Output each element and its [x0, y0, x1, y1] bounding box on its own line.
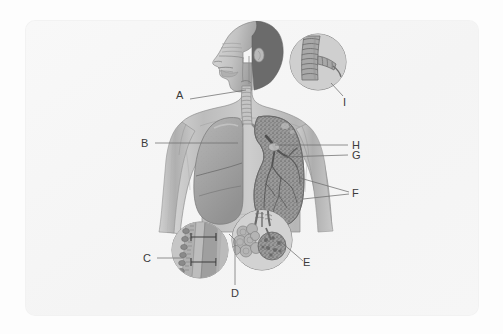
label-E: E — [303, 257, 311, 268]
leader-I — [331, 83, 343, 96]
label-F: F — [352, 188, 359, 199]
anatomy-illustration — [0, 0, 503, 334]
label-G: G — [352, 150, 361, 161]
illustration-stage — [0, 0, 503, 334]
bronchus-cartilage-inset — [290, 34, 346, 90]
label-B: B — [141, 138, 149, 149]
head-profile — [213, 21, 283, 92]
label-H: H — [352, 140, 360, 151]
epithelium-inset — [172, 222, 228, 278]
label-I: I — [343, 97, 346, 108]
label-A: A — [176, 90, 184, 101]
leader-A — [190, 90, 246, 99]
alveoli-inset — [232, 210, 293, 270]
label-D: D — [231, 288, 239, 299]
label-C: C — [143, 253, 151, 264]
figure-root: A B C D E F G H I — [0, 0, 503, 334]
